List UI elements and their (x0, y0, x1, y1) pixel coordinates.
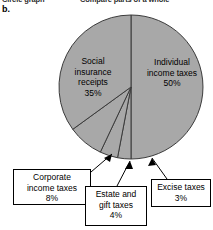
circle-graph-figure: Circle graph Compare parts of a whole b. (0, 0, 213, 230)
callout-value: 4% (88, 210, 144, 221)
pie-chart: Social insurance receipts 35% Individual… (0, 0, 213, 230)
pie-slice-group (59, 15, 203, 159)
callout-corporate-income-taxes: Corporate income taxes 8% (13, 169, 91, 205)
pie-slice-individual-income-taxes (131, 15, 203, 159)
callout-value: 8% (16, 193, 88, 204)
callout-estate-and-gift-taxes: Estate and gift taxes 4% (85, 186, 147, 226)
callout-line: Excise taxes (154, 182, 208, 193)
callout-line: Corporate (16, 172, 88, 183)
callout-line: Estate and (88, 189, 144, 200)
callout-line: gift taxes (88, 200, 144, 211)
callout-excise-taxes: Excise taxes 3% (151, 179, 211, 207)
callout-line: income taxes (16, 183, 88, 194)
leader-line-excise-taxes (152, 158, 167, 179)
callout-value: 3% (154, 193, 208, 204)
